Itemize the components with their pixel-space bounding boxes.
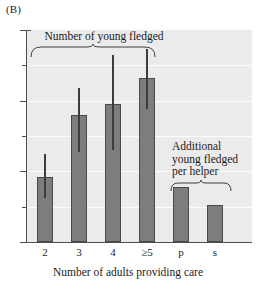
errorbar-category-4: [112, 55, 113, 150]
left-brace-icon: [30, 44, 156, 58]
gridline: [26, 65, 252, 66]
x-axis-line: [26, 242, 252, 243]
y-tick-0: [20, 242, 27, 243]
right-annotation-line-1: Additional: [172, 140, 254, 153]
y-tick-2: [20, 171, 27, 172]
y-tick-5: [22, 65, 27, 66]
errorbar-category-2: [44, 154, 45, 199]
right-annotation-label: Additional young fledged per helper: [172, 140, 254, 178]
bar-category-s: [207, 205, 223, 242]
figure-panel-b: (B) 6 4 2 0 2 3 4 ≥5 p s Number of adult…: [0, 0, 256, 290]
right-annotation-line-3: per helper: [172, 165, 254, 178]
right-annotation-line-2: young fledged: [172, 153, 254, 166]
x-axis-label-s: s: [195, 246, 235, 259]
errorbar-category-3: [78, 88, 79, 152]
x-axis-title: Number of adults providing care: [0, 266, 256, 279]
errorbar-category-5plus: [146, 49, 147, 109]
panel-label: (B): [6, 3, 21, 15]
right-brace-icon: [170, 180, 232, 192]
y-tick-4: [20, 101, 27, 102]
left-annotation-label: Number of young fledged: [30, 30, 178, 43]
bar-category-p: [173, 187, 189, 242]
y-tick-3: [22, 136, 27, 137]
y-tick-6: [20, 30, 27, 31]
y-tick-1: [22, 207, 27, 208]
